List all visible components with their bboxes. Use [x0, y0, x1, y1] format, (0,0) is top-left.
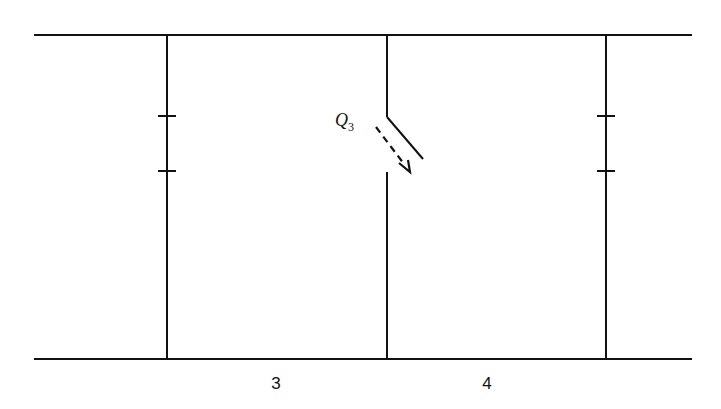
left-branch	[158, 35, 176, 359]
region-label-4: 4	[482, 374, 491, 393]
right-branch	[597, 35, 615, 359]
circuit-diagram: Q3 3 4	[0, 0, 721, 409]
switch-blade	[387, 117, 423, 159]
switch-label: Q3	[335, 110, 354, 134]
region-label-3: 3	[271, 374, 280, 393]
middle-branch-switch	[376, 35, 423, 359]
arrow-head-icon	[399, 160, 410, 172]
